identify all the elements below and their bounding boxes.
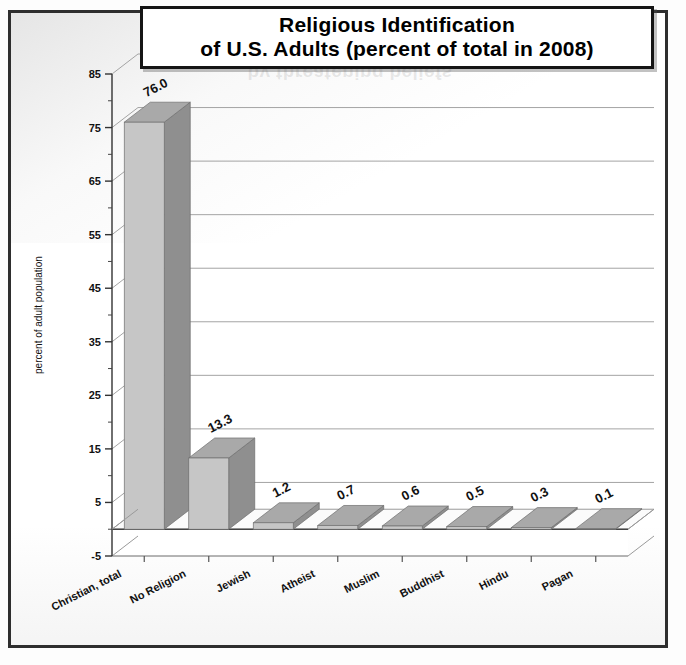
y-axis-tick-label: 35 [89,336,101,348]
x-axis-category-label: Christian, total [49,567,123,613]
x-axis-category-label: Jewish [214,567,252,594]
x-axis-category-label: Muslim [342,567,381,595]
bar-value-label: 0.6 [399,482,422,504]
axis-bottom-depth-right [628,536,654,556]
bar-side-face [164,102,190,529]
bar-value-label: 0.7 [334,482,357,504]
bar-front-face[interactable] [576,529,616,530]
bar-value-label: 0.1 [592,485,615,507]
chart-screenshot: by threatening beliefs Religious Identif… [0,0,686,665]
y-axis-tick-label: 85 [89,68,101,80]
bar-front-face[interactable] [447,527,487,530]
bar-value-label: 0.5 [463,483,486,505]
y-axis-tick-label: 75 [89,122,101,134]
chart-title-box: Religious Identification of U.S. Adults … [140,6,654,69]
bar-value-label: 0.3 [528,484,551,506]
y-axis-tick-label: 25 [89,389,101,401]
y-axis-tick-label: 5 [95,496,101,508]
y-axis-tick-label: 65 [89,175,101,187]
bar-value-label: 13.3 [205,411,234,436]
bar-group [189,438,255,529]
gridline-depth [112,54,138,74]
x-axis-category-label: Pagan [540,567,575,593]
bar-front-face[interactable] [124,122,164,529]
chart-plot-area: -551525354555657585percent of adult popu… [0,0,686,665]
chart-title-line-1: Religious Identification [149,13,645,37]
chart-title-line-2: of U.S. Adults (percent of total in 2008… [149,37,645,61]
bar-front-face[interactable] [318,525,358,529]
x-axis-category-label: No Religion [128,567,188,606]
y-axis-tick-label: 55 [89,229,101,241]
x-axis-category-label: Atheist [278,567,317,595]
x-axis-category-label: Buddhist [398,567,446,599]
bar-front-face[interactable] [189,458,229,529]
y-axis-tick-label: 15 [89,443,101,455]
x-axis-category-label: Hindu [477,567,510,592]
bar-front-face[interactable] [382,526,422,529]
y-axis-tick-label: -5 [91,550,101,562]
y-axis-tick-label: 45 [89,282,101,294]
bar-group [124,102,190,529]
chart-lower-region [112,529,628,556]
bar-front-face[interactable] [511,528,551,530]
bar-front-face[interactable] [253,523,293,529]
bar-value-label: 76.0 [141,75,170,100]
y-axis-title: percent of adult population [33,256,44,374]
